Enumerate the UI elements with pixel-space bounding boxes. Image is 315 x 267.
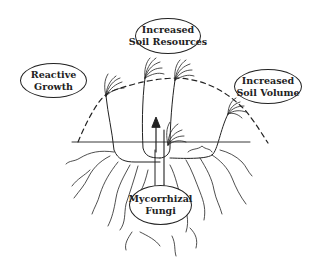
- mycorrhizal-fungi-label: Mycorrhizal Fungi: [129, 185, 192, 225]
- soil-resources-line-2: Soil Resources: [129, 36, 207, 48]
- soil-volume-line-2: Soil Volume: [236, 87, 299, 99]
- root-stem-2: [142, 78, 160, 158]
- mycorrhizal-root-diagram: Increased Soil Resources Reactive Growth…: [0, 0, 315, 267]
- root-stem-4: [170, 114, 228, 158]
- reactive-growth-label: Reactive Growth: [20, 63, 87, 98]
- soil-volume-label: Increased Soil Volume: [234, 69, 302, 104]
- reactive-growth-line-1: Reactive: [31, 69, 76, 81]
- soil-resources-line-1: Increased: [142, 24, 194, 36]
- mycorrhizal-line-2: Fungi: [145, 205, 176, 217]
- growth-arrow-head: [152, 117, 160, 127]
- root-stem-3: [160, 80, 175, 158]
- soil-volume-line-1: Increased: [242, 75, 294, 87]
- soil-resources-label: Increased Soil Resources: [135, 18, 201, 54]
- root-hair-tufts: [105, 58, 246, 145]
- reactive-growth-line-2: Growth: [34, 81, 73, 93]
- mycorrhizal-line-1: Mycorrhizal: [129, 193, 193, 205]
